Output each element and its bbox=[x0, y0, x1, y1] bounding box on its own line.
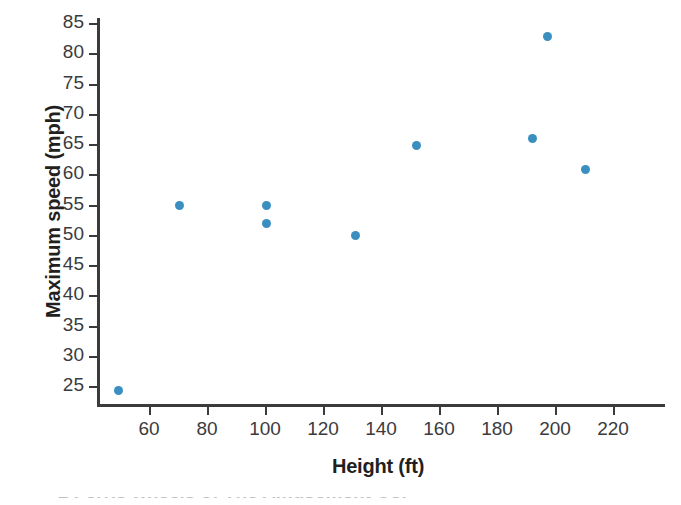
y-tick: 80 bbox=[89, 53, 98, 55]
y-tick-label: 45 bbox=[44, 254, 84, 274]
y-tick-label: 85 bbox=[44, 12, 84, 32]
data-point bbox=[412, 141, 421, 150]
x-tick-label: 160 bbox=[417, 419, 461, 439]
y-tick: 40 bbox=[89, 295, 98, 297]
x-tick-label: 140 bbox=[359, 419, 403, 439]
scatter-plot-figure: Maximum speed (mph) Height (ft) 25303540… bbox=[0, 0, 681, 505]
y-tick: 70 bbox=[89, 114, 98, 116]
x-tick-label: 60 bbox=[127, 419, 171, 439]
y-tick-label: 75 bbox=[44, 73, 84, 93]
x-tick: 100 bbox=[265, 406, 267, 415]
data-point bbox=[351, 231, 360, 240]
page-caption-cutoff: 2 Ferris wheels of The Amusement Co. bbox=[0, 497, 681, 505]
x-tick: 80 bbox=[207, 406, 209, 415]
y-tick-label: 70 bbox=[44, 103, 84, 123]
data-point bbox=[528, 134, 537, 143]
data-point bbox=[262, 219, 271, 228]
x-tick: 140 bbox=[381, 406, 383, 415]
plot-area bbox=[99, 18, 665, 404]
y-tick-label: 55 bbox=[44, 194, 84, 214]
y-tick-label: 40 bbox=[44, 284, 84, 304]
y-tick-label: 65 bbox=[44, 133, 84, 153]
x-tick: 160 bbox=[439, 406, 441, 415]
y-tick: 55 bbox=[89, 205, 98, 207]
x-tick-label: 220 bbox=[591, 419, 635, 439]
y-tick: 75 bbox=[89, 84, 98, 86]
y-tick-label: 60 bbox=[44, 163, 84, 183]
y-tick-label: 30 bbox=[44, 345, 84, 365]
x-tick-label: 80 bbox=[185, 419, 229, 439]
data-point bbox=[543, 32, 552, 41]
x-tick: 200 bbox=[555, 406, 557, 415]
y-tick: 30 bbox=[89, 356, 98, 358]
x-axis-title: Height (ft) bbox=[98, 455, 658, 478]
y-tick: 65 bbox=[89, 144, 98, 146]
x-tick: 60 bbox=[149, 406, 151, 415]
data-point bbox=[175, 201, 184, 210]
y-tick: 50 bbox=[89, 235, 98, 237]
x-tick-label: 120 bbox=[301, 419, 345, 439]
data-point bbox=[581, 165, 590, 174]
y-tick: 25 bbox=[89, 386, 98, 388]
y-tick: 35 bbox=[89, 326, 98, 328]
y-tick: 85 bbox=[89, 23, 98, 25]
y-tick-label: 35 bbox=[44, 315, 84, 335]
x-tick-label: 180 bbox=[475, 419, 519, 439]
x-tick-label: 200 bbox=[533, 419, 577, 439]
x-tick-label: 100 bbox=[243, 419, 287, 439]
data-point bbox=[114, 386, 123, 395]
y-tick-label: 80 bbox=[44, 42, 84, 62]
y-tick-label: 25 bbox=[44, 375, 84, 395]
x-tick: 180 bbox=[497, 406, 499, 415]
x-tick: 220 bbox=[613, 406, 615, 415]
y-tick: 60 bbox=[89, 174, 98, 176]
x-tick: 120 bbox=[323, 406, 325, 415]
caption-text: 2 Ferris wheels of The Amusement Co. bbox=[58, 497, 407, 503]
data-point bbox=[262, 201, 271, 210]
y-tick-label: 50 bbox=[44, 224, 84, 244]
y-tick: 45 bbox=[89, 265, 98, 267]
